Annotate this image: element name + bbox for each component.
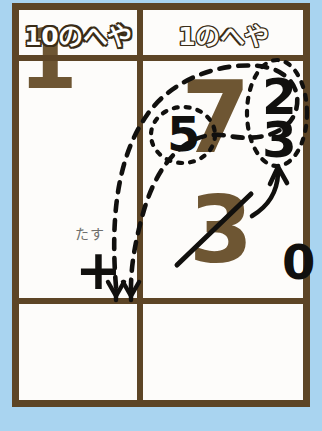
crossed-out-digit-three: 3 [189, 185, 253, 277]
header-divider-rule [19, 55, 303, 61]
plus-operator-sign: + [75, 242, 122, 298]
decomposed-digit-five: 5 [167, 110, 200, 158]
header-cell-tens-room: 10のへや [19, 12, 137, 55]
addend-bottom-digit-three: 3 [262, 115, 297, 165]
worksheet-card-scene: 10のへや 1のへや 7 3 5 2 3 0 たす + 1 [0, 0, 322, 431]
place-value-card: 10のへや 1のへや 7 3 5 2 3 0 たす + 1 [12, 3, 310, 407]
tens-room-label: 10のへや [24, 16, 131, 52]
result-ones-digit-zero: 0 [282, 238, 315, 286]
ones-room-label: 1のへや [178, 16, 268, 52]
column-divider-rule [137, 10, 143, 400]
regroup-arrow [252, 174, 278, 216]
regroup-arrow-head [270, 167, 287, 184]
answer-divider-rule [19, 298, 303, 304]
header-cell-ones-room: 1のへや [143, 12, 304, 55]
